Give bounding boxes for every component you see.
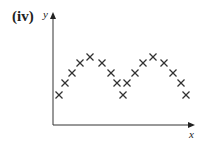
x-marker-icon bbox=[150, 54, 157, 61]
x-marker-icon bbox=[132, 70, 139, 77]
x-marker-icon bbox=[99, 60, 106, 67]
x-marker-icon bbox=[183, 92, 190, 99]
x-marker-icon bbox=[170, 70, 177, 77]
x-marker-icon bbox=[69, 70, 76, 77]
x-marker-icon bbox=[108, 70, 115, 77]
x-marker-icon bbox=[87, 54, 94, 61]
x-marker-icon bbox=[140, 60, 147, 67]
x-axis bbox=[53, 122, 195, 128]
y-axis-arrow-icon bbox=[50, 12, 56, 19]
scatter-plot bbox=[0, 0, 198, 142]
data-markers bbox=[56, 54, 190, 99]
x-marker-icon bbox=[161, 60, 168, 67]
x-marker-icon bbox=[114, 80, 121, 87]
x-marker-icon bbox=[62, 80, 69, 87]
x-axis-arrow-icon bbox=[188, 122, 195, 128]
y-axis bbox=[50, 12, 56, 125]
x-marker-icon bbox=[56, 92, 63, 99]
x-marker-icon bbox=[120, 92, 127, 99]
x-marker-icon bbox=[77, 60, 84, 67]
x-marker-icon bbox=[124, 80, 131, 87]
x-marker-icon bbox=[178, 80, 185, 87]
